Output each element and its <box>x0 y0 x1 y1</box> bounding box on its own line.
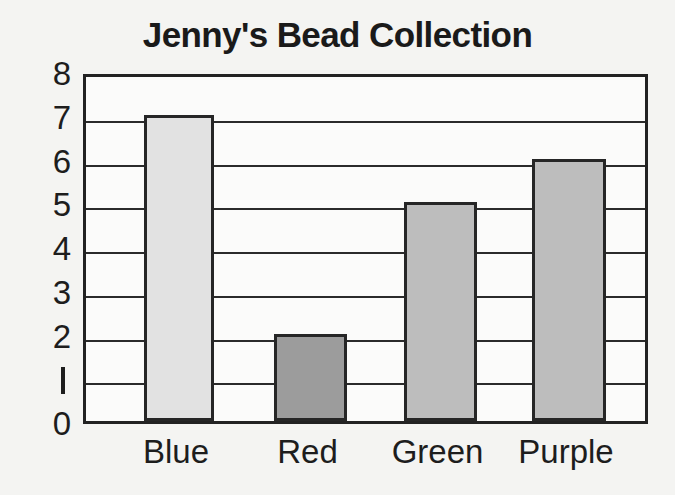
plot-area <box>83 74 648 424</box>
y-tick-label-7: 7 <box>53 101 71 134</box>
y-tick-label-3: 3 <box>53 276 71 309</box>
y-axis: 87654320 <box>0 0 83 495</box>
y-tick-label-2: 2 <box>53 320 71 353</box>
x-tick-label-red: Red <box>277 432 338 472</box>
y-tick-label-0: 0 <box>53 407 71 440</box>
y-tick-label-1 <box>61 363 65 396</box>
x-tick-label-blue: Blue <box>143 432 209 472</box>
y-tick-label-5: 5 <box>53 188 71 221</box>
y-tick-label-4: 4 <box>53 232 71 265</box>
chart-title: Jenny's Bead Collection <box>0 14 675 56</box>
x-axis: BlueRedGreenPurple <box>83 432 648 482</box>
bar-purple <box>532 159 606 422</box>
y-tick-label-8: 8 <box>53 57 71 90</box>
bar-blue <box>144 115 214 421</box>
bar-red <box>274 334 347 422</box>
x-tick-label-green: Green <box>392 432 484 472</box>
bars-group <box>86 77 645 421</box>
bar-green <box>404 202 477 421</box>
y-tick-glyph-one <box>61 367 65 394</box>
x-tick-label-purple: Purple <box>518 432 613 472</box>
bar-chart: Jenny's Bead Collection 87654320 BlueRed… <box>0 0 675 495</box>
y-tick-label-6: 6 <box>53 145 71 178</box>
